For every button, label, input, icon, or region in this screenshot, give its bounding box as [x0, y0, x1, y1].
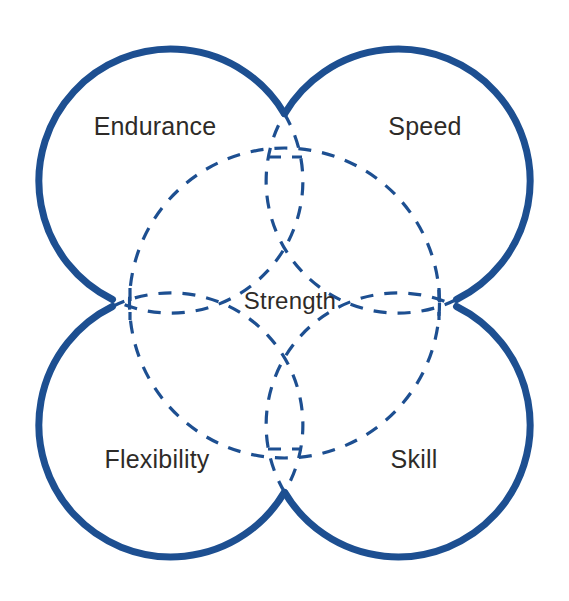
label-strength: Strength — [244, 287, 336, 315]
skill-circle-outline — [285, 307, 530, 557]
speed-inner-arc — [266, 114, 456, 314]
label-skill: Skill — [391, 445, 438, 474]
label-speed: Speed — [388, 112, 461, 141]
venn-diagram-root: Endurance Speed Flexibility Skill Streng… — [0, 0, 569, 601]
speed-circle-outline — [285, 49, 530, 299]
label-endurance: Endurance — [94, 112, 217, 141]
endurance-inner-arc — [113, 114, 303, 314]
flexibility-circle-outline — [39, 307, 284, 557]
endurance-circle-outline — [39, 49, 284, 299]
label-flexibility: Flexibility — [105, 445, 210, 474]
